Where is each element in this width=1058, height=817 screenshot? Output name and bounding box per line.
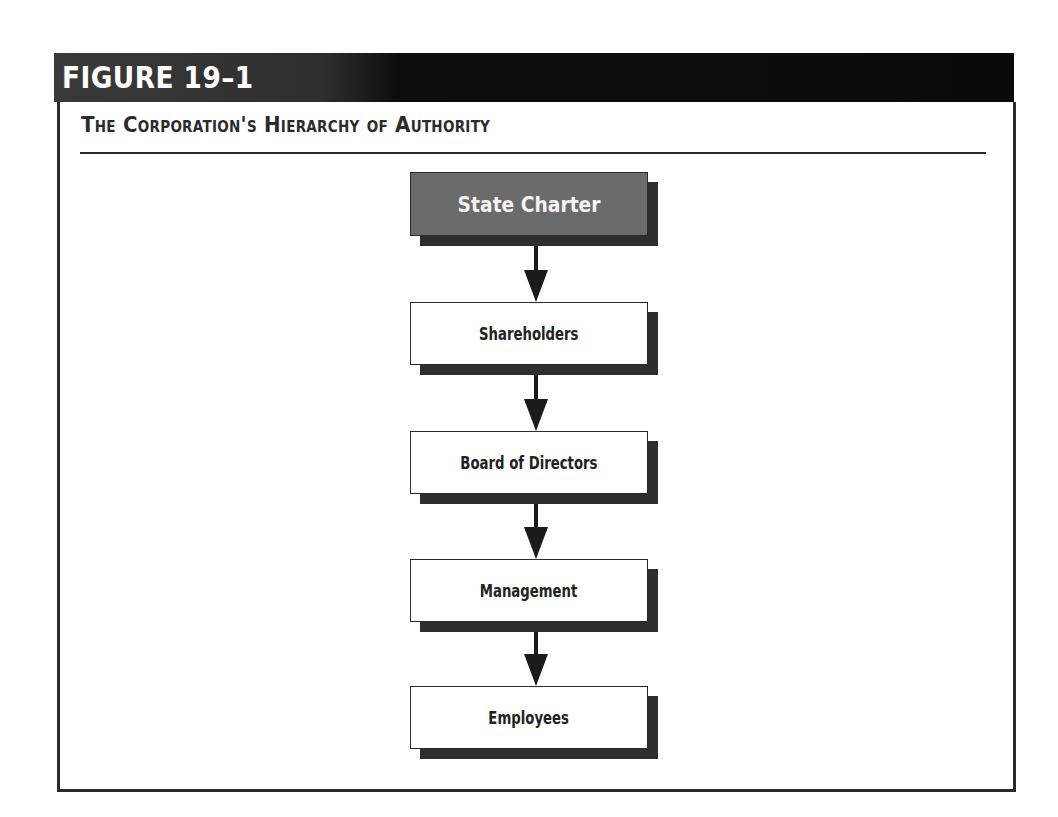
node-label: Shareholders [479, 324, 578, 344]
node-label: State Charter [458, 192, 601, 217]
node-label: Management [480, 581, 578, 601]
figure-number: FIGURE 19–1 [62, 58, 254, 98]
node-employees: Employees [410, 686, 648, 749]
arrow-down-icon [524, 375, 548, 431]
node-label: Employees [489, 708, 570, 728]
node-management: Management [410, 559, 648, 622]
node-shareholders: Shareholders [410, 302, 648, 365]
node-state-charter: State Charter [410, 172, 648, 236]
arrow-down-icon [524, 504, 548, 559]
figure-title: The Corporation's Hierarchy of Authority [81, 107, 490, 143]
node-board-of-directors: Board of Directors [410, 431, 648, 494]
node-label: Board of Directors [460, 453, 597, 473]
title-divider [80, 152, 986, 154]
figure-header-bar: FIGURE 19–1 [54, 53, 1014, 102]
arrow-down-icon [524, 246, 548, 302]
arrow-down-icon [524, 632, 548, 686]
